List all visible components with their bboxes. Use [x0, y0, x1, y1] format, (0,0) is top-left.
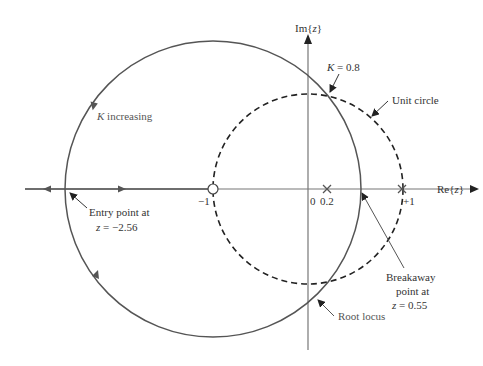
breakaway-label-line3: z = 0.55 [391, 299, 428, 311]
real-axis [25, 185, 479, 193]
real-axis-arrowhead-icon [470, 185, 479, 193]
entry-point-label-line1: Entry point at [89, 206, 150, 218]
k-increasing-label: K increasing [96, 110, 153, 122]
real-axis-left-arrow-icon [43, 186, 51, 193]
real-axis-right-arrow-icon [118, 186, 126, 193]
locus-arrow-upper-icon [90, 100, 98, 110]
tick-label-plus-one: +1 [403, 195, 415, 207]
k-value-label: K = 0.8 [326, 61, 360, 73]
root-locus-label: Root locus [338, 310, 385, 322]
zero-marker-icon [208, 184, 218, 194]
breakaway-label-line1: Breakaway [386, 271, 436, 283]
tick-label-zero: 0 [310, 195, 316, 207]
entry-point-label-line2: z = −2.56 [95, 221, 138, 233]
tick-label-minus-one: −1 [198, 195, 210, 207]
imag-axis-arrowhead-icon [304, 34, 312, 44]
breakaway-label-line2: point at [396, 285, 429, 297]
root-locus-diagram: −1 0 0.2 +1 Re{z} Im{z} K increasing K =… [0, 0, 483, 366]
tick-label-zero-two: 0.2 [320, 195, 334, 207]
real-axis-label: Re{z} [437, 183, 464, 195]
imag-axis-label: Im{z} [295, 22, 322, 34]
unit-circle-label: Unit circle [392, 94, 439, 106]
